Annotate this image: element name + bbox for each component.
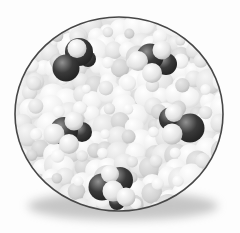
- hydrogen-atom: [59, 134, 79, 154]
- molecular-illustration-page: [0, 0, 240, 233]
- hydrogen-atom: [142, 63, 162, 83]
- hydrogen-atom: [65, 112, 84, 131]
- molecule-magnifier-illustration: [0, 0, 240, 233]
- hydrogen-atom: [153, 41, 172, 60]
- hydrogen-atom: [162, 124, 183, 145]
- hydrogen-atom: [68, 39, 87, 58]
- dark-atom: [53, 55, 80, 82]
- hydrogen-atom: [165, 104, 183, 122]
- hydrogen-atom: [101, 165, 119, 183]
- hydrogen-atom: [117, 188, 136, 207]
